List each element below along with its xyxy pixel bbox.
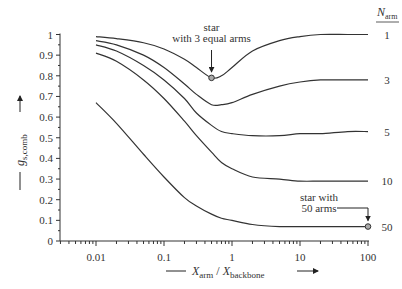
- x-tick-label: 100: [360, 251, 377, 263]
- x-tick-label: 0.1: [157, 251, 171, 263]
- y-tick-label: 0.4: [39, 152, 53, 164]
- x-tick-label: 10: [295, 251, 307, 263]
- y-tick-label: 0.9: [39, 49, 53, 61]
- axes: 00.10.20.30.40.50.60.70.80.910.010.11101…: [39, 29, 377, 264]
- svg-text:with 3 equal arms: with 3 equal arms: [172, 32, 251, 44]
- y-axis-label: gs,comb: [13, 96, 29, 190]
- y-tick-label: 0.7: [39, 90, 53, 102]
- series-label-1: 1: [384, 29, 390, 41]
- chart: 00.10.20.30.40.50.60.70.80.910.010.11101…: [0, 0, 402, 289]
- marker-point: [365, 224, 371, 230]
- y-tick-label: 0.6: [39, 111, 53, 123]
- x-tick-label: 1: [229, 251, 235, 263]
- series-label-50: 50: [382, 221, 394, 233]
- series-line-10: [96, 53, 368, 181]
- y-tick-label: 0.8: [39, 70, 53, 82]
- y-tick-label: 0.3: [39, 173, 53, 185]
- series-line-3: [96, 41, 368, 106]
- marker-point: [209, 75, 215, 81]
- series-label-3: 3: [384, 74, 390, 86]
- svg-text:Xarm / Xbackbone: Xarm / Xbackbone: [191, 264, 265, 280]
- series-line-5: [96, 45, 368, 136]
- y-tick-label: 1: [48, 29, 54, 41]
- x-axis-label: Xarm / Xbackbone: [166, 264, 318, 280]
- annotation-star-50-arms: star with50 arms: [300, 191, 371, 229]
- series-label-5: 5: [384, 126, 390, 138]
- svg-text:50 arms: 50 arms: [301, 202, 336, 214]
- y-tick-label: 0.1: [39, 214, 53, 226]
- x-tick-label: 0.01: [86, 251, 105, 263]
- series-group: 1351050: [96, 29, 393, 233]
- y-tick-label: 0.2: [39, 194, 53, 206]
- series-label-10: 10: [382, 175, 394, 187]
- svg-text:gs,comb: gs,comb: [13, 134, 29, 166]
- annotation-star-3-arms: starwith 3 equal arms: [172, 21, 251, 81]
- legend-title: Narm: [376, 5, 398, 21]
- y-tick-label: 0.5: [39, 132, 53, 144]
- y-tick-label: 0: [48, 235, 54, 247]
